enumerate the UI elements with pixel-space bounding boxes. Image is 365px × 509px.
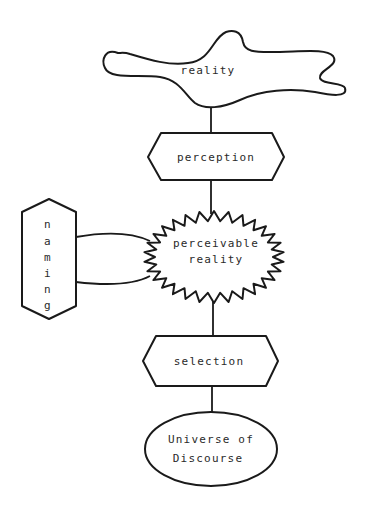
naming-letter-2: a [44,235,52,248]
edge-naming-arc-bottom [76,276,150,284]
universe-label-line2: Discourse [173,452,243,465]
edge-naming-arc-top [76,234,150,241]
perceivable-reality-label-line1: perceivable [173,237,259,250]
naming-letter-1: n [44,218,52,231]
universe-ellipse-shape [145,412,277,486]
naming-letter-6: g [44,299,52,312]
universe-label-line1: Universe of [168,433,254,446]
naming-letter-4: i [44,267,52,280]
node-universe-of-discourse: Universe of Discourse [145,412,277,486]
selection-label: selection [174,355,244,368]
node-perceivable-reality: perceivable reality [144,211,283,303]
perception-label: perception [177,151,255,164]
node-naming: n a m i n g [22,199,76,319]
naming-letter-3: m [44,251,52,264]
reality-label: reality [181,64,236,77]
node-reality: reality [104,31,346,107]
node-selection: selection [143,336,278,386]
node-perception: perception [148,133,284,180]
naming-letter-5: n [44,283,52,296]
diagram: reality perception perceivable reality n… [0,0,365,509]
perceivable-reality-label-line2: reality [189,253,244,266]
